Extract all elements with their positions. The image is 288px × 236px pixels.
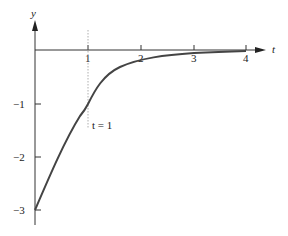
t-axis-arrow-icon xyxy=(255,47,266,53)
tick-label-2: 2 xyxy=(138,52,144,64)
solution-curve xyxy=(35,51,246,210)
y-axis-arrow-icon xyxy=(32,20,38,31)
t-axis-label: t xyxy=(272,43,276,55)
t1-annotation: t = 1 xyxy=(92,119,112,131)
tick-label-m1: −1 xyxy=(13,98,25,110)
tick-label-m2: −2 xyxy=(13,151,25,163)
tick-label-m3: −3 xyxy=(13,204,25,216)
graph: y t 1 2 3 4 −1 −2 −3 t = 1 xyxy=(0,0,288,236)
tick-label-4: 4 xyxy=(243,52,249,64)
y-axis-label: y xyxy=(30,7,36,19)
